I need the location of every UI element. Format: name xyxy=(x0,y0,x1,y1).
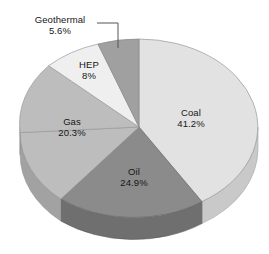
pie-chart-graphic xyxy=(0,0,269,254)
pie-chart-figure: Coal 41.2% Oil 24.9% Gas 20.3% HEP 8% Ge… xyxy=(0,0,269,254)
